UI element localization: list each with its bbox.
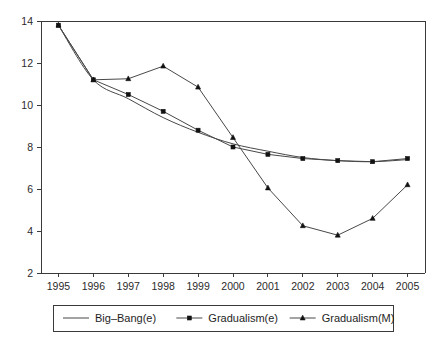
y-tick-label: 12 <box>21 57 33 69</box>
data-point-square <box>371 160 375 164</box>
data-point-triangle <box>196 84 201 89</box>
series-gradualismm <box>56 22 410 237</box>
data-point-square <box>126 93 130 97</box>
x-tick-label: 2003 <box>326 280 350 292</box>
x-tick-label: 2002 <box>291 280 315 292</box>
data-point-square <box>187 316 191 320</box>
data-point-square <box>406 157 410 161</box>
data-point-square <box>266 152 270 156</box>
y-tick-label: 14 <box>21 15 33 27</box>
x-tick-label: 1998 <box>152 280 176 292</box>
x-tick-label: 1999 <box>186 280 210 292</box>
x-tick-label: 2004 <box>361 280 385 292</box>
data-point-triangle <box>161 63 166 68</box>
legend-label: Big–Bang(e) <box>95 312 156 324</box>
legend: Big–Bang(e)Gradualism(e)Gradualism(M) <box>53 305 394 331</box>
x-tick-label: 1997 <box>117 280 141 292</box>
data-point-triangle <box>405 182 410 187</box>
series-gradualisme <box>56 23 409 164</box>
data-point-square <box>231 145 235 149</box>
data-point-square <box>196 128 200 132</box>
series-line <box>58 25 407 162</box>
data-point-square <box>301 157 305 161</box>
x-tick-label: 2001 <box>256 280 280 292</box>
y-tick-label: 10 <box>21 99 33 111</box>
series-line <box>58 25 407 235</box>
series-big-bange <box>58 25 407 162</box>
y-tick-label: 6 <box>27 183 33 195</box>
x-tick-label: 1996 <box>82 280 106 292</box>
data-point-square <box>161 109 165 113</box>
y-tick-label: 2 <box>27 267 33 279</box>
chart-container: 2468101214199519961997199819992000200120… <box>0 0 445 345</box>
legend-label: Gradualism(M) <box>322 312 395 324</box>
series-line <box>58 25 407 162</box>
data-point-square <box>336 159 340 163</box>
x-tick-label: 2005 <box>396 280 420 292</box>
x-tick-label: 2000 <box>221 280 245 292</box>
line-chart: 2468101214199519961997199819992000200120… <box>0 0 445 345</box>
y-tick-label: 4 <box>27 225 33 237</box>
legend-label: Gradualism(e) <box>208 312 278 324</box>
x-tick-label: 1995 <box>47 280 71 292</box>
y-tick-label: 8 <box>27 141 33 153</box>
